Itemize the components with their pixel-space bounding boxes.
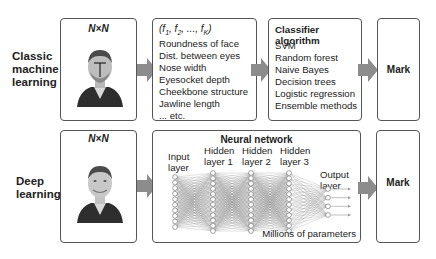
neuron-node [173, 208, 178, 213]
parameters-caption: Millions of parameters [262, 228, 356, 239]
input-size-label: N×N [61, 133, 136, 144]
feature-item: ... etc. [159, 110, 248, 122]
classifier-item: Decision trees [275, 76, 357, 88]
row-label-line: machine [12, 63, 59, 76]
feature-item: Eyesocket depth [159, 74, 248, 86]
neural-network-box: Neural network Input layer Hidden layer … [152, 130, 361, 243]
input-image-box-classic: N×N [60, 18, 137, 121]
neuron-node [173, 175, 178, 180]
classifier-list: SVM Random forest Naive Bayes Decision t… [275, 40, 357, 112]
neuron-node [287, 171, 292, 176]
row-label-line: Deep [16, 175, 61, 188]
feature-item: Roundness of face [159, 38, 248, 50]
row-label-line: Classic [12, 50, 59, 63]
neuron-node [211, 197, 216, 202]
neuron-node [287, 192, 292, 197]
neuron-node [211, 176, 216, 181]
mark-label: Mark [378, 64, 419, 75]
neuron-node [173, 191, 178, 196]
neuron-node [173, 180, 178, 185]
feature-item: Jawline length [159, 98, 248, 110]
neuron-node [287, 218, 292, 223]
neuron-node [173, 202, 178, 207]
neuron-node [287, 197, 292, 202]
row-label-line: learning [12, 76, 59, 89]
neuron-node [211, 208, 216, 213]
neuron-node [249, 181, 254, 186]
neuron-node [249, 208, 254, 213]
classifier-item: Random forest [275, 52, 357, 64]
neuron-node [211, 202, 216, 207]
input-size-label: N×N [61, 23, 136, 34]
neuron-node [173, 219, 178, 224]
input-image-box-deep: N×N [60, 130, 137, 243]
neuron-node [287, 176, 292, 181]
neuron-node [173, 213, 178, 218]
feature-list: Roundness of face Dist. between eyes Nos… [159, 38, 248, 122]
classifier-item: Ensemble methods [275, 100, 357, 112]
neuron-node [287, 186, 292, 191]
neuron-node [173, 186, 178, 191]
neuron-node [287, 181, 292, 186]
neuron-node [211, 223, 216, 228]
neuron-node [211, 181, 216, 186]
neuron-node [249, 223, 254, 228]
neuron-node [173, 197, 178, 202]
neuron-node [287, 202, 292, 207]
neuron-node [249, 186, 254, 191]
neuron-node [249, 171, 254, 176]
neuron-node [249, 213, 254, 218]
arrow-icon [358, 58, 378, 82]
neuron-node [211, 192, 216, 197]
classifier-item: Naive Bayes [275, 64, 357, 76]
neuron-node [211, 218, 216, 223]
neuron-node [249, 192, 254, 197]
feature-item: Nose width [159, 62, 248, 74]
row-label-classic: Classic machine learning [12, 50, 59, 89]
feature-item: Dist. between eyes [159, 50, 248, 62]
arrow-icon [358, 176, 378, 200]
neuron-node [249, 197, 254, 202]
row-label-line: learning [16, 188, 61, 201]
neuron-node [249, 176, 254, 181]
face-photo-with-feature-marks [75, 45, 125, 107]
neuron-node [249, 229, 254, 234]
output-mark-box-deep: Mark [376, 130, 420, 243]
neuron-node [326, 213, 331, 218]
neuron-node [326, 187, 331, 192]
classifier-box: Classifier algorithm SVM Random forest N… [268, 18, 362, 121]
neuron-node [211, 213, 216, 218]
neuron-node [211, 186, 216, 191]
row-label-deep: Deep learning [16, 175, 61, 201]
features-box: (f1, f2, ..., fK) Roundness of face Dist… [152, 18, 257, 121]
classifier-item: SVM [275, 40, 357, 52]
neuron-node [173, 225, 178, 230]
neuron-node [211, 171, 216, 176]
neuron-node [249, 202, 254, 207]
classifier-item: Logistic regression [275, 88, 357, 100]
output-mark-box-classic: Mark [377, 18, 420, 121]
feature-vector-header: (f1, f2, ..., fK) [159, 23, 212, 36]
mark-label: Mark [377, 177, 419, 188]
neuron-node [211, 229, 216, 234]
neuron-node [326, 204, 331, 209]
neuron-node [326, 195, 331, 200]
neuron-node [287, 208, 292, 213]
feature-item: Cheekbone structure [159, 86, 248, 98]
neuron-node [287, 213, 292, 218]
neuron-node [249, 218, 254, 223]
face-photo [75, 161, 125, 223]
